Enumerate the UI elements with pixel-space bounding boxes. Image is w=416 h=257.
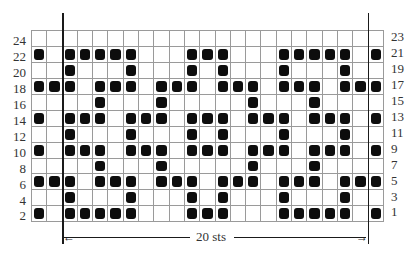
stitch-cell-empty <box>246 206 261 222</box>
stitch-cell-filled <box>63 143 78 159</box>
stitch-cell-filled <box>124 174 139 190</box>
row-number-left: 10 <box>4 146 26 159</box>
stitch-cell-filled <box>63 174 78 190</box>
stitch-cell-filled <box>277 63 292 79</box>
stitch-cell-filled <box>78 111 93 127</box>
row-number-right: 11 <box>391 126 413 139</box>
stitch-cell-empty <box>261 174 276 190</box>
stitch-cell-empty <box>47 127 62 143</box>
stitch-cell-filled <box>185 111 200 127</box>
stitch-cell-filled <box>124 127 139 143</box>
stitch-cell-empty <box>32 31 47 47</box>
stitch-cell-filled <box>261 143 276 159</box>
stitch-cell-empty <box>93 31 108 47</box>
stitch-cell-empty <box>261 31 276 47</box>
repeat-arrow-right-segment <box>234 237 366 238</box>
stitch-cell-filled <box>93 174 108 190</box>
stitch-cell-empty <box>216 95 231 111</box>
stitch-cell-empty <box>93 190 108 206</box>
stitch-cell-empty <box>78 63 93 79</box>
stitch-cell-filled <box>277 79 292 95</box>
stitch-cell-filled <box>124 47 139 63</box>
stitch-cell-empty <box>93 63 108 79</box>
repeat-marker-right <box>368 13 370 244</box>
row-number-right: 1 <box>391 205 413 218</box>
stitch-cell-filled <box>200 47 215 63</box>
stitch-cell-filled <box>32 206 47 222</box>
stitch-cell-filled <box>338 143 353 159</box>
row-number-left: 6 <box>4 178 26 191</box>
stitch-cell-empty <box>369 190 384 206</box>
stitch-cell-empty <box>277 95 292 111</box>
stitch-cell-empty <box>353 206 368 222</box>
stitch-cell-empty <box>216 31 231 47</box>
stitch-cell-empty <box>47 95 62 111</box>
stitch-cell-empty <box>32 63 47 79</box>
stitch-cell-filled <box>200 206 215 222</box>
stitch-cell-filled <box>185 190 200 206</box>
stitch-cell-filled <box>93 95 108 111</box>
stitch-cell-empty <box>185 95 200 111</box>
stitch-cell-filled <box>185 174 200 190</box>
stitch-cell-filled <box>353 174 368 190</box>
stitch-cell-empty <box>338 159 353 175</box>
stitch-cell-empty <box>78 31 93 47</box>
stitch-cell-empty <box>139 47 154 63</box>
stitch-cell-empty <box>231 127 246 143</box>
stitch-cell-empty <box>353 111 368 127</box>
stitch-cell-empty <box>261 79 276 95</box>
stitch-cell-filled <box>32 143 47 159</box>
stitch-cell-filled <box>124 143 139 159</box>
stitch-cell-empty <box>261 63 276 79</box>
stitch-cell-filled <box>338 47 353 63</box>
stitch-cell-filled <box>93 143 108 159</box>
stitch-cell-empty <box>338 31 353 47</box>
stitch-cell-empty <box>47 31 62 47</box>
stitch-cell-empty <box>323 127 338 143</box>
stitch-cell-filled <box>63 79 78 95</box>
stitch-cell-empty <box>292 143 307 159</box>
stitch-cell-filled <box>185 79 200 95</box>
stitch-cell-filled <box>246 143 261 159</box>
stitch-cell-empty <box>32 159 47 175</box>
stitch-cell-empty <box>307 63 322 79</box>
stitch-cell-filled <box>78 47 93 63</box>
stitch-cell-empty <box>369 127 384 143</box>
stitch-cell-empty <box>231 206 246 222</box>
stitch-cell-empty <box>170 127 185 143</box>
stitch-cell-filled <box>108 47 123 63</box>
stitch-cell-empty <box>292 127 307 143</box>
stitch-cell-empty <box>124 95 139 111</box>
stitch-cell-empty <box>108 31 123 47</box>
stitch-cell-empty <box>323 63 338 79</box>
stitch-cell-empty <box>353 143 368 159</box>
stitch-cell-empty <box>200 95 215 111</box>
stitch-cell-empty <box>170 31 185 47</box>
row-number-right: 17 <box>391 78 413 91</box>
stitch-cell-empty <box>323 159 338 175</box>
stitch-cell-filled <box>246 174 261 190</box>
stitch-cell-empty <box>78 174 93 190</box>
stitch-cell-filled <box>32 79 47 95</box>
row-number-left: 12 <box>4 130 26 143</box>
stitch-cell-empty <box>200 159 215 175</box>
stitch-cell-empty <box>32 127 47 143</box>
stitch-cell-filled <box>246 95 261 111</box>
stitch-cell-filled <box>338 111 353 127</box>
stitch-cell-empty <box>47 63 62 79</box>
stitch-cell-empty <box>277 159 292 175</box>
stitch-cell-empty <box>78 190 93 206</box>
stitch-cell-empty <box>231 143 246 159</box>
stitch-cell-filled <box>63 111 78 127</box>
stitch-cell-empty <box>139 31 154 47</box>
stitch-cell-filled <box>93 159 108 175</box>
stitch-cell-empty <box>200 190 215 206</box>
stitch-cell-filled <box>47 174 62 190</box>
stitch-cell-filled <box>307 159 322 175</box>
row-number-right: 3 <box>391 190 413 203</box>
stitch-grid <box>31 30 384 222</box>
stitch-cell-empty <box>124 159 139 175</box>
stitch-cell-filled <box>231 174 246 190</box>
row-number-left: 24 <box>4 34 26 47</box>
stitch-cell-filled <box>216 63 231 79</box>
